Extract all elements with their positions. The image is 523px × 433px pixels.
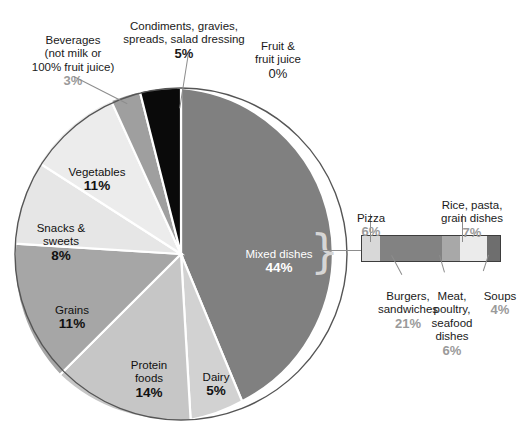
pie-label-dairy: Dairy 5% bbox=[190, 357, 242, 411]
bar-label-soups: Soups 4% bbox=[478, 276, 522, 330]
pie-label-dairy-pct: 5% bbox=[190, 384, 242, 398]
pie-label-grains-pct: 11% bbox=[39, 317, 105, 331]
mixed-dishes-brace: } bbox=[310, 228, 324, 276]
bar-label-soups-text: Soups bbox=[484, 290, 517, 302]
callout-label-fruit-pct: 0% bbox=[240, 67, 316, 81]
bar-label-soups-pct: 4% bbox=[478, 303, 522, 317]
bar-label-pizza-pct: 6% bbox=[347, 225, 395, 239]
pie-label-snacks-sweets: Snacks & sweets 8% bbox=[25, 208, 97, 276]
pie-label-protein-foods-text: Protein foods bbox=[131, 359, 167, 385]
callout-label-condiments-pct: 5% bbox=[108, 47, 260, 61]
pie-label-snacks-sweets-pct: 8% bbox=[25, 249, 97, 263]
callout-label-condiments-text: Condiments, gravies, spreads, salad dres… bbox=[123, 20, 244, 46]
pie-label-dairy-text: Dairy bbox=[203, 371, 230, 383]
pie-label-vegetables-pct: 11% bbox=[55, 179, 139, 193]
pie-label-grains-text: Grains bbox=[55, 304, 89, 316]
bar-label-meat-pct: 6% bbox=[424, 344, 480, 358]
callout-label-condiments: Condiments, gravies, spreads, salad dres… bbox=[108, 6, 260, 74]
pie-label-grains: Grains 11% bbox=[39, 290, 105, 344]
bar-label-rice: Rice, pasta, grain dishes 7% bbox=[424, 185, 520, 253]
pie-label-snacks-sweets-text: Snacks & sweets bbox=[37, 222, 86, 248]
pie-label-vegetables: Vegetables 11% bbox=[55, 152, 139, 206]
bar-label-rice-text: Rice, pasta, grain dishes bbox=[441, 199, 503, 225]
callout-label-fruit: Fruit & fruit juice 0% bbox=[240, 26, 316, 94]
pie-label-mixed-dishes-text: Mixed dishes bbox=[245, 248, 312, 260]
bar-label-rice-pct: 7% bbox=[424, 226, 520, 240]
bar-label-meat: Meat, poultry, seafood dishes 6% bbox=[424, 276, 480, 371]
pie-label-protein-foods: Protein foods 14% bbox=[115, 345, 183, 413]
callout-label-fruit-text: Fruit & fruit juice bbox=[255, 40, 301, 66]
bar-label-meat-text: Meat, poultry, seafood dishes bbox=[432, 290, 473, 343]
bar-label-pizza: Pizza 6% bbox=[347, 198, 395, 252]
callout-label-beverages-text: Beverages (not milk or 100% fruit juice) bbox=[32, 34, 114, 73]
pie-label-protein-foods-pct: 14% bbox=[115, 386, 183, 400]
chart-page: Mixed dishes 44% Dairy 5% Protein foods … bbox=[0, 0, 523, 433]
bar-label-pizza-text: Pizza bbox=[357, 212, 385, 224]
pie-label-vegetables-text: Vegetables bbox=[69, 166, 126, 178]
